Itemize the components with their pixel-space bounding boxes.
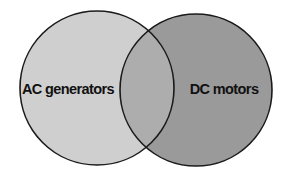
set-dc-motors-label: DC motors: [190, 81, 259, 97]
venn-diagram: AC generators DC motors: [0, 0, 289, 178]
set-ac-generators-label: AC generators: [22, 81, 115, 97]
